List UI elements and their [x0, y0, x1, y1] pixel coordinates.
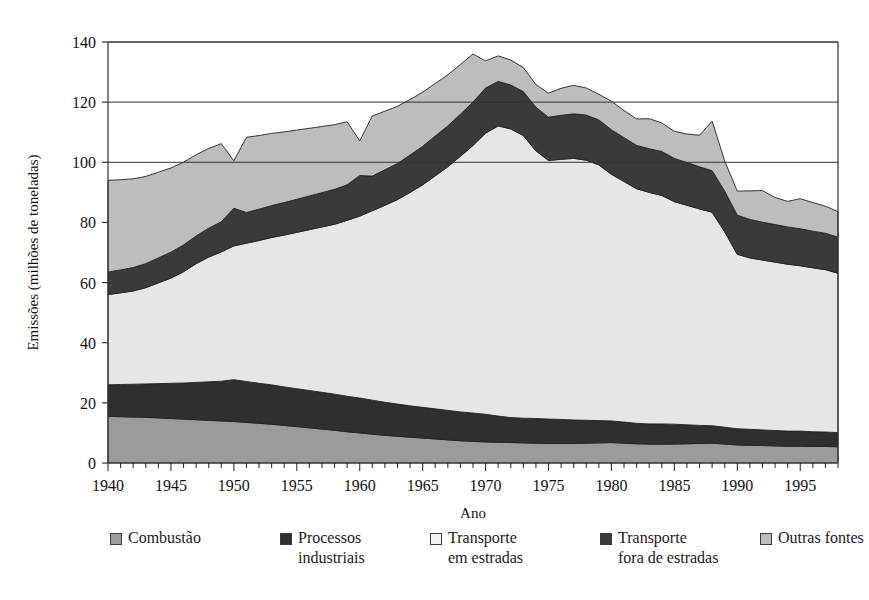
x-tick-label-1955: 1955 — [281, 477, 313, 494]
legend-label: Transporte em estradas — [448, 528, 523, 568]
chart-figure: 0204060801001201401940194519501955196019… — [0, 0, 869, 600]
legend-item-3[interactable]: Transporte fora de estradas — [600, 528, 718, 568]
y-tick-label-80: 80 — [80, 214, 96, 231]
y-axis-title: Emissões (milhões de toneladas) — [25, 154, 42, 350]
y-tick-label-0: 0 — [88, 455, 96, 472]
legend-label: Processos industriais — [298, 528, 365, 568]
legend-label: Combustão — [128, 528, 201, 548]
legend-swatch-icon — [430, 533, 442, 545]
legend-label: Transporte fora de estradas — [618, 528, 718, 568]
x-tick-label-1960: 1960 — [344, 477, 376, 494]
legend-item-0[interactable]: Combustão — [110, 528, 201, 548]
x-tick-label-1970: 1970 — [470, 477, 502, 494]
stacked-area-chart: 0204060801001201401940194519501955196019… — [0, 0, 869, 600]
legend-swatch-icon — [280, 533, 292, 545]
y-tick-label-140: 140 — [72, 34, 96, 51]
x-tick-label-1990: 1990 — [721, 477, 753, 494]
legend-item-4[interactable]: Outras fontes — [760, 528, 864, 548]
x-tick-label-1980: 1980 — [595, 477, 627, 494]
x-tick-label-1985: 1985 — [658, 477, 690, 494]
x-axis-title: Ano — [460, 505, 486, 521]
chart-legend: CombustãoProcessos industriaisTransporte… — [0, 528, 869, 590]
y-tick-label-40: 40 — [80, 335, 96, 352]
legend-label: Outras fontes — [778, 528, 864, 548]
x-tick-label-1940: 1940 — [92, 477, 124, 494]
y-tick-label-20: 20 — [80, 395, 96, 412]
legend-swatch-icon — [110, 533, 122, 545]
x-tick-label-1965: 1965 — [407, 477, 439, 494]
x-tick-label-1950: 1950 — [218, 477, 250, 494]
x-tick-label-1945: 1945 — [155, 477, 187, 494]
legend-item-2[interactable]: Transporte em estradas — [430, 528, 523, 568]
legend-item-1[interactable]: Processos industriais — [280, 528, 365, 568]
x-tick-label-1995: 1995 — [784, 477, 816, 494]
legend-swatch-icon — [760, 533, 772, 545]
legend-swatch-icon — [600, 533, 612, 545]
y-tick-label-100: 100 — [72, 154, 96, 171]
y-tick-label-60: 60 — [80, 275, 96, 292]
y-tick-label-120: 120 — [72, 94, 96, 111]
x-tick-label-1975: 1975 — [533, 477, 565, 494]
